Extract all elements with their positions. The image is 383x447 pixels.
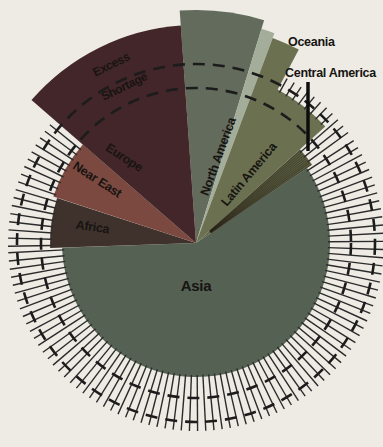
hatch-tick <box>8 246 52 247</box>
hatch-tick <box>9 230 53 233</box>
hatch-tick <box>310 102 321 114</box>
pie-chart-canvas: North America Latin America Asia Africa … <box>0 0 383 447</box>
hatch-tick <box>10 214 54 221</box>
hatch-tick <box>301 322 346 356</box>
hatch-tick <box>282 343 318 386</box>
hatch-tick <box>290 336 330 375</box>
label-asia: Asia <box>181 277 212 294</box>
callout-central-america: Central America <box>285 66 377 80</box>
hatch-tick <box>8 250 64 253</box>
hatch-tick <box>15 278 69 293</box>
food-supply-pie-chart: North America Latin America Asia Africa … <box>0 0 383 447</box>
hatch-tick <box>28 159 64 177</box>
hatch-tick <box>8 238 52 239</box>
hatch-tick <box>103 358 131 407</box>
callout-labels: Oceania Central America <box>285 35 377 80</box>
hatch-tick <box>231 370 246 424</box>
hatch-tick <box>70 341 108 383</box>
hatch-tick <box>53 329 96 365</box>
hatch-tick <box>181 375 185 431</box>
hatch-tick <box>328 233 383 236</box>
hatch-tick <box>9 222 53 227</box>
callout-oceania: Oceania <box>288 35 336 49</box>
hatch-tick <box>308 313 356 343</box>
